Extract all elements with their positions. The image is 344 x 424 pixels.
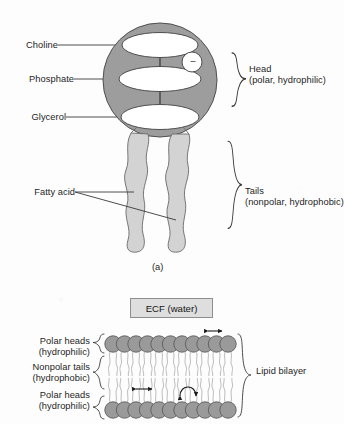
label-nonpolar-tails-title: Nonpolar tails bbox=[0, 362, 90, 373]
label-polar-heads-bottom-subtitle: (hydrophilic) bbox=[4, 401, 90, 412]
label-fatty-acid: Fatty acid bbox=[8, 187, 75, 198]
brace-polar-heads-bottom bbox=[93, 396, 104, 419]
bilayer-top-heads bbox=[105, 336, 236, 352]
bilayer-bottom-heads bbox=[105, 402, 236, 418]
label-polar-heads-top-subtitle: (hydrophilic) bbox=[4, 347, 90, 358]
fatty-acid-tail-left bbox=[125, 133, 149, 252]
bilayer-top-tails bbox=[108, 352, 232, 376]
label-polar-heads-bottom-title: Polar heads bbox=[4, 390, 90, 401]
fatty-acid-tail-right bbox=[166, 134, 190, 252]
label-nonpolar-tails-subtitle: (hydrophobic) bbox=[0, 373, 90, 384]
label-tails-subtitle: (nonpolar, hydrophobic) bbox=[245, 197, 344, 208]
label-polar-heads-top-title: Polar heads bbox=[4, 336, 90, 347]
negative-charge-symbol: – bbox=[183, 56, 203, 67]
label-head-title: Head bbox=[249, 64, 271, 75]
ecf-water-box: ECF (water) bbox=[130, 298, 213, 318]
panel-a-caption: (a) bbox=[152, 262, 163, 272]
bilayer-bottom-tails bbox=[108, 378, 232, 402]
brace-tails bbox=[228, 141, 242, 228]
brace-nonpolar-tails bbox=[93, 356, 104, 389]
label-head-subtitle: (polar, hydrophilic) bbox=[249, 75, 326, 86]
brace-lipid-bilayer bbox=[238, 334, 251, 417]
ecf-water-label: ECF (water) bbox=[146, 303, 198, 314]
leader-fatty-acid-right bbox=[75, 192, 176, 220]
leader-lines-fatty-acid bbox=[75, 192, 176, 220]
arrow-rotation bbox=[180, 387, 196, 396]
glycerol-ellipse bbox=[121, 105, 199, 130]
brace-polar-heads-top bbox=[93, 334, 104, 353]
label-glycerol: Glycerol bbox=[8, 112, 66, 123]
label-lipid-bilayer: Lipid bilayer bbox=[256, 366, 306, 377]
brace-head bbox=[232, 53, 246, 106]
label-phosphate: Phosphate bbox=[8, 74, 74, 85]
label-choline: Choline bbox=[8, 40, 58, 51]
fatty-acid-tails bbox=[125, 133, 190, 252]
label-tails-title: Tails bbox=[245, 186, 264, 197]
